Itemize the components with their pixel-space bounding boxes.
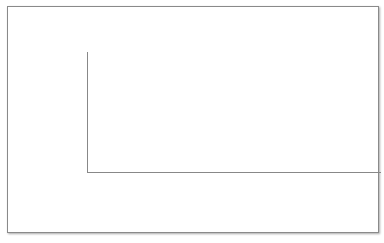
plot-area xyxy=(87,52,381,173)
